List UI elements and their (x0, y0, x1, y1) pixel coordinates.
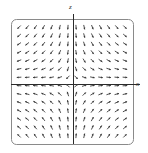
field-arrow-head (67, 117, 69, 119)
field-arrow-head (67, 28, 69, 30)
field-arrow-head (17, 76, 19, 78)
field-arrow-head (75, 117, 77, 119)
plot-frame (12, 20, 134, 145)
field-arrow-head (67, 134, 69, 136)
vector-field-plot: z x (0, 0, 148, 153)
field-arrow-head (109, 76, 111, 78)
field-arrow-head (67, 44, 69, 46)
field-arrow-head (75, 134, 77, 136)
field-arrow-head (75, 28, 77, 30)
axis-label-z: z (69, 4, 72, 11)
axis-label-x: x (136, 81, 139, 88)
field-arrow-head (33, 76, 35, 78)
field-arrow-head (75, 125, 77, 127)
field-arrow-head (67, 36, 69, 38)
arrow-glyphs (17, 25, 127, 138)
field-arrow-head (25, 76, 27, 78)
field-arrow-head (75, 36, 77, 38)
vector-field-canvas (0, 0, 148, 153)
field-arrow-head (67, 125, 69, 127)
field-arrow-head (125, 76, 127, 78)
field-arrow-head (117, 76, 119, 78)
field-arrow-head (75, 44, 77, 46)
